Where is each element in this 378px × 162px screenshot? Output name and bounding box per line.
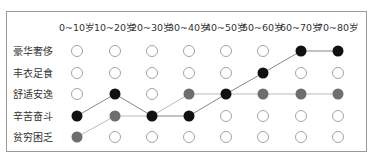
empty-circle-marker bbox=[258, 111, 269, 122]
empty-circle-marker bbox=[258, 46, 269, 57]
filled-marker-gray bbox=[258, 89, 269, 100]
empty-circle-marker bbox=[221, 46, 232, 57]
filled-marker-black bbox=[184, 111, 195, 122]
empty-circle-marker bbox=[333, 111, 344, 122]
empty-circle-marker bbox=[184, 132, 195, 143]
column-header: 0~10岁 bbox=[59, 22, 95, 33]
column-header: 70~80岁 bbox=[317, 22, 359, 33]
filled-marker-gray bbox=[110, 111, 121, 122]
filled-marker-black bbox=[258, 68, 269, 79]
filled-marker-black bbox=[110, 89, 121, 100]
filled-marker-black bbox=[296, 46, 307, 57]
filled-marker-black bbox=[333, 46, 344, 57]
empty-circle-marker bbox=[333, 68, 344, 79]
filled-marker-gray bbox=[296, 89, 307, 100]
row-label: 豪华奢侈 bbox=[13, 45, 53, 57]
column-header: 30~40岁 bbox=[168, 22, 210, 33]
empty-circle-marker bbox=[147, 46, 158, 57]
empty-circle-marker bbox=[221, 132, 232, 143]
filled-marker-gray bbox=[72, 132, 83, 143]
empty-circle-marker bbox=[184, 46, 195, 57]
empty-circle-marker bbox=[296, 132, 307, 143]
filled-marker-gray bbox=[333, 89, 344, 100]
empty-circle-marker bbox=[221, 68, 232, 79]
empty-circle-marker bbox=[333, 132, 344, 143]
row-label: 丰衣足食 bbox=[13, 67, 53, 79]
column-header: 20~30岁 bbox=[131, 22, 173, 33]
column-header: 10~20岁 bbox=[94, 22, 136, 33]
empty-circle-marker bbox=[110, 46, 121, 57]
filled-marker-gray bbox=[184, 89, 195, 100]
life-stage-chart: 0~10岁10~20岁20~30岁30~40岁40~50岁50~60岁60~70… bbox=[0, 0, 378, 162]
column-header: 50~60岁 bbox=[242, 22, 284, 33]
filled-marker-black bbox=[72, 111, 83, 122]
empty-circle-marker bbox=[72, 46, 83, 57]
row-labels: 豪华奢侈丰衣足食舒适安逸辛苦奋斗贫穷困乏 bbox=[13, 45, 53, 143]
column-headers: 0~10岁10~20岁20~30岁30~40岁40~50岁50~60岁60~70… bbox=[59, 22, 359, 33]
column-header: 60~70岁 bbox=[280, 22, 322, 33]
empty-circle-marker bbox=[296, 68, 307, 79]
filled-marker-black bbox=[221, 89, 232, 100]
empty-circle-marker bbox=[72, 89, 83, 100]
empty-circle-marker bbox=[184, 68, 195, 79]
series-line-black bbox=[77, 51, 338, 116]
row-label: 贫穷困乏 bbox=[13, 131, 53, 143]
column-header: 40~50岁 bbox=[205, 22, 247, 33]
empty-circle-marker bbox=[296, 111, 307, 122]
empty-circle-marker bbox=[110, 68, 121, 79]
row-label: 舒适安逸 bbox=[13, 88, 53, 100]
filled-marker-black bbox=[147, 111, 158, 122]
row-label: 辛苦奋斗 bbox=[13, 110, 53, 122]
empty-circle-marker bbox=[147, 68, 158, 79]
empty-circle-marker bbox=[110, 132, 121, 143]
empty-circle-marker bbox=[258, 132, 269, 143]
empty-circle-marker bbox=[147, 132, 158, 143]
empty-circle-marker bbox=[147, 89, 158, 100]
empty-circle-marker bbox=[221, 111, 232, 122]
empty-circle-marker bbox=[72, 68, 83, 79]
